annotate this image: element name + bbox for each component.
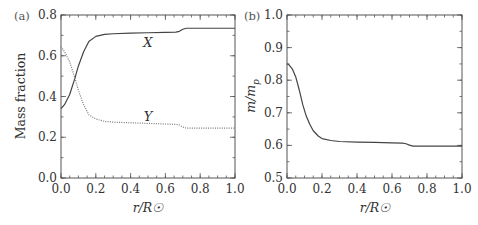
- series-label-x: X: [142, 35, 153, 50]
- y-tick-label: 0.9: [264, 41, 283, 55]
- x-tick-label: 0.2: [86, 182, 105, 196]
- series-label-y: Y: [144, 109, 154, 124]
- panel-a-x-tick-labels: 0.00.20.40.60.81.0: [51, 182, 244, 196]
- panel-b-y-axis-title: m/mp: [243, 79, 261, 113]
- panel-b-x-axis-title: r/R☉: [360, 200, 392, 215]
- y-tick-label: 0.6: [38, 49, 57, 63]
- panel-b-ticks: [287, 15, 462, 178]
- y-tick-label: 0.8: [264, 73, 283, 87]
- x-tick-label: 0.2: [312, 182, 331, 196]
- x-tick-label: 0.6: [382, 182, 401, 196]
- x-tick-label: 0.4: [121, 182, 140, 196]
- x-tick-label: 1.0: [225, 182, 244, 196]
- panel-b: (b) 0.00.20.40.60.81.0 0.50.60.70.80.91.…: [243, 8, 472, 215]
- x-tick-label: 0.4: [347, 182, 366, 196]
- y-tick-label: 0.4: [38, 90, 57, 104]
- chart-figure: (a) 0.00.20.40.60.81.0 0.00.20.40.60.8 X…: [0, 0, 478, 225]
- panel-a-x-axis-title: r/R☉: [133, 200, 165, 215]
- panel-a-series: XY: [61, 28, 235, 128]
- panel-a: (a) 0.00.20.40.60.81.0 0.00.20.40.60.8 X…: [13, 8, 245, 215]
- y-tick-label: 0.7: [264, 106, 283, 120]
- panel-a-label: (a): [14, 9, 30, 23]
- panel-b-plot-frame: [287, 15, 462, 178]
- x-tick-label: 0.8: [191, 182, 210, 196]
- y-tick-label: 0.2: [38, 130, 57, 144]
- y-tick-label: 0.5: [264, 171, 283, 185]
- x-tick-label: 0.6: [156, 182, 175, 196]
- panel-a-y-axis-title: Mass fraction: [13, 53, 28, 140]
- panel-b-label: (b): [244, 9, 260, 23]
- y-tick-label: 0.6: [264, 138, 283, 152]
- panel-b-y-tick-labels: 0.50.60.70.80.91.0: [264, 8, 283, 185]
- y-tick-label: 0.8: [38, 8, 57, 22]
- y-tick-label: 1.0: [264, 8, 283, 22]
- series-line-mean-molecular-weight: [287, 64, 462, 146]
- panel-b-x-tick-labels: 0.00.20.40.60.81.0: [277, 182, 471, 196]
- x-tick-label: 0.8: [417, 182, 436, 196]
- y-tick-label: 0.0: [38, 171, 57, 185]
- panel-b-series: [287, 64, 462, 146]
- x-tick-label: 1.0: [452, 182, 471, 196]
- panel-a-y-tick-labels: 0.00.20.40.60.8: [38, 8, 57, 185]
